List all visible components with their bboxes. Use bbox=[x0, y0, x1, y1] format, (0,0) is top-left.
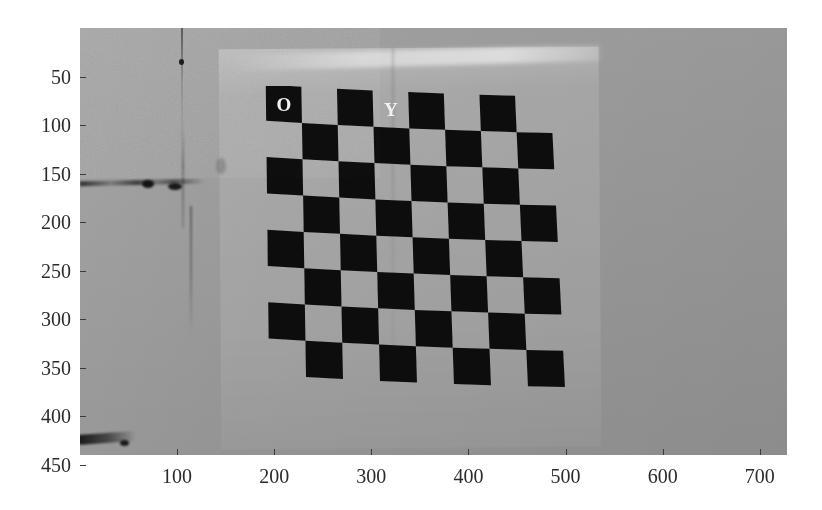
y-axis-tick-label: 300 bbox=[41, 308, 71, 331]
checker-square bbox=[482, 167, 520, 204]
checker-square bbox=[526, 350, 565, 387]
y-axis-tick-label: 200 bbox=[41, 211, 71, 234]
y-axis-tick-label: 250 bbox=[41, 259, 71, 282]
checkerboard-svg: OY bbox=[263, 86, 583, 406]
checker-square bbox=[379, 345, 417, 383]
x-axis-tick-label: 300 bbox=[356, 465, 386, 488]
checker-square bbox=[267, 157, 304, 195]
y-axis-tick-label: 400 bbox=[41, 405, 71, 428]
origin-marker-letter: O bbox=[276, 94, 291, 115]
x-axis-tick-label: 500 bbox=[551, 465, 581, 488]
figure-root: OY 100200300400500600700 501001502002503… bbox=[0, 0, 822, 510]
checker-square bbox=[338, 161, 375, 199]
checker-square bbox=[342, 306, 380, 344]
checker-square bbox=[413, 237, 451, 275]
y-axis-tick-label: 50 bbox=[51, 65, 71, 88]
checker-square bbox=[448, 202, 486, 240]
y-axis-tick bbox=[80, 222, 86, 223]
checker-square bbox=[485, 240, 523, 277]
checker-square bbox=[488, 313, 526, 350]
y-axis-tick-label: 150 bbox=[41, 162, 71, 185]
checker-square bbox=[374, 127, 411, 165]
x-axis-tick-label: 200 bbox=[259, 465, 289, 488]
checker-square bbox=[408, 92, 445, 130]
y-axis-tick-label: 100 bbox=[41, 114, 71, 137]
checker-square bbox=[520, 205, 558, 242]
x-axis-tick bbox=[177, 449, 178, 455]
checker-square bbox=[410, 165, 447, 203]
checker-square bbox=[268, 302, 305, 340]
axis-marker-letter: Y bbox=[384, 99, 398, 120]
checker-square bbox=[304, 268, 341, 306]
checker-square bbox=[377, 272, 415, 310]
x-axis-tick bbox=[760, 449, 761, 455]
checkerboard-squares bbox=[266, 86, 565, 387]
y-axis-tick bbox=[80, 174, 86, 175]
y-axis-tick bbox=[80, 125, 86, 126]
y-axis-tick bbox=[80, 319, 86, 320]
checker-square bbox=[305, 341, 343, 379]
x-axis-tick bbox=[371, 449, 372, 455]
checker-square bbox=[445, 130, 482, 168]
x-axis-tick-label: 100 bbox=[162, 465, 192, 488]
checkerboard-target: OY bbox=[263, 86, 563, 386]
x-axis-tick-label: 400 bbox=[453, 465, 483, 488]
checker-square bbox=[450, 275, 488, 313]
checker-square bbox=[302, 123, 339, 161]
y-axis-tick-label: 350 bbox=[41, 356, 71, 379]
x-axis-tick bbox=[468, 449, 469, 455]
checker-square bbox=[453, 348, 491, 386]
photograph-image: OY bbox=[80, 28, 787, 455]
y-axis-tick bbox=[80, 368, 86, 369]
checker-square bbox=[479, 95, 516, 132]
x-axis-tick bbox=[274, 449, 275, 455]
x-axis-tick-label: 700 bbox=[745, 465, 775, 488]
x-axis-tick bbox=[566, 449, 567, 455]
checker-square bbox=[523, 277, 561, 314]
x-axis-tick-label: 600 bbox=[648, 465, 678, 488]
y-axis-tick-label: 450 bbox=[41, 453, 71, 476]
checker-square bbox=[415, 310, 453, 348]
checker-square bbox=[267, 230, 304, 268]
checker-square bbox=[337, 89, 374, 127]
y-axis-tick bbox=[80, 465, 86, 466]
checker-square bbox=[303, 196, 340, 234]
checker-square bbox=[340, 234, 377, 272]
y-axis-tick bbox=[80, 77, 86, 78]
x-axis-tick bbox=[663, 449, 664, 455]
y-axis-tick bbox=[80, 271, 86, 272]
y-axis-tick bbox=[80, 416, 86, 417]
checker-square bbox=[517, 132, 555, 169]
checker-square bbox=[375, 199, 412, 237]
